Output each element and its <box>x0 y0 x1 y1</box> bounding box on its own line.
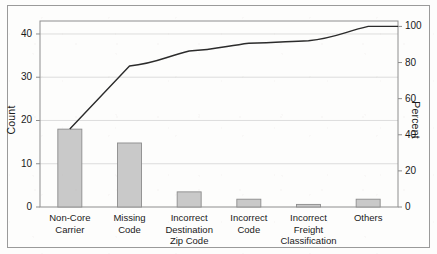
bars <box>58 129 380 207</box>
y-axis-right-tick-label: 60 <box>405 93 431 104</box>
plot-area-border <box>40 21 398 207</box>
bar <box>118 143 142 207</box>
y-axis-right-tick-label: 40 <box>405 129 431 140</box>
bar <box>177 192 201 207</box>
pareto-chart: Count Percent 403020100 100806040200 Non… <box>0 0 437 254</box>
cumulative-line <box>70 26 398 129</box>
y-axis-left-tick-label: 40 <box>8 28 32 39</box>
cumulative-percent-line <box>70 26 398 129</box>
y-axis-left-tick-label: 30 <box>8 71 32 82</box>
gridlines <box>40 34 398 164</box>
y-axis-left-tick-label: 0 <box>8 201 32 212</box>
bar <box>356 199 380 207</box>
y-axis-right-tick-label: 80 <box>405 57 431 68</box>
bar <box>58 129 82 207</box>
y-axis-left-tick-label: 20 <box>8 114 32 125</box>
y-axis-left-tick-label: 10 <box>8 158 32 169</box>
plot-frame <box>40 21 398 207</box>
y-axis-right-tick-label: 100 <box>405 20 431 31</box>
x-axis-category-label: Others <box>331 212 405 224</box>
y-axis-right-tick-label: 20 <box>405 165 431 176</box>
y-axis-right-tick-label: 0 <box>405 201 431 212</box>
bar <box>297 204 321 207</box>
axis-ticks <box>36 26 402 207</box>
bar <box>237 199 261 207</box>
